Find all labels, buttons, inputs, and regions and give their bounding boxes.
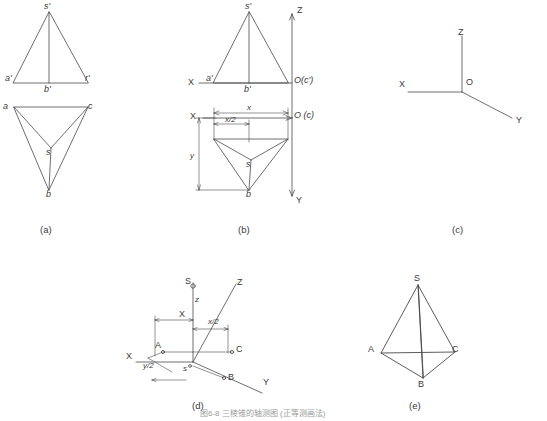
panel-b-label-b: b (246, 190, 251, 199)
panel-b-dim-label-X: X (190, 112, 196, 121)
diagram-stage: s' a' b' r' a c s b (a) Z X Y O(c') O (c… (0, 0, 547, 421)
panel-a-label-r-prime: r' (85, 74, 90, 83)
panel-b-label-o-c: O (c) (294, 111, 314, 120)
panel-d-axis-label-z: Z (237, 278, 243, 287)
panel-e-label-c: C (452, 345, 459, 354)
panel-d-label-s-point: S (185, 277, 191, 286)
panel-a-label-s: s (46, 148, 51, 157)
panel-c-axis-label-x: X (399, 80, 405, 89)
panel-b-dim-label-x-half: x/2 (225, 116, 236, 124)
panel-b-label-s: s (246, 160, 251, 169)
panel-a-label-c: c (88, 102, 93, 111)
panel-d-label-a: A (155, 341, 161, 350)
panel-b-dimension-lines (196, 108, 288, 190)
panel-d-label-z-dim: z (195, 296, 199, 304)
panel-d-dim-label-x-half: x/2 (208, 318, 219, 326)
panel-a-label-b: b (46, 190, 51, 199)
diagram-svg (0, 0, 547, 421)
panel-e-label-a: A (368, 345, 374, 354)
panel-a-front-view (13, 12, 88, 83)
panel-b-label-o-c-prime: O(c') (294, 76, 313, 85)
panel-c-axis-label-z: Z (458, 28, 464, 37)
panel-a-label-a-prime: a' (5, 74, 12, 83)
panel-b-label-b-prime: b' (244, 85, 251, 94)
panel-b-label-s-prime: s' (245, 2, 251, 11)
panel-d-dim-label-y-half: y/2 (143, 362, 154, 370)
panel-b-caption: (b) (238, 225, 250, 235)
panel-c-axis-label-o: O (466, 78, 473, 87)
panel-d-dim-label-X: X (179, 310, 185, 319)
panel-d-axis-label-x: X (126, 352, 132, 361)
panel-b-top-view (214, 139, 288, 190)
panel-b-axis-label-x: X (188, 78, 194, 87)
panel-d-label-b: B (228, 373, 234, 382)
panel-c-axis-label-y: Y (516, 116, 522, 125)
panel-a-label-b-prime: b' (44, 85, 51, 94)
panel-c-axes (408, 36, 512, 118)
panel-e-label-b: B (418, 380, 424, 389)
panel-a-top-view (14, 107, 88, 190)
panel-a-label-a: a (3, 102, 8, 111)
panel-a-label-s-prime: s' (44, 2, 50, 11)
panel-b-axis-label-y: Y (296, 196, 302, 205)
panel-b-dim-label-x: x (247, 104, 251, 112)
panel-a-caption: (a) (40, 225, 52, 235)
panel-d-axis-label-y: Y (263, 378, 269, 387)
panel-d-construction (148, 284, 234, 382)
panel-e-pyramid (381, 285, 455, 378)
panel-b-axis-label-z: Z (297, 6, 303, 15)
panel-b-label-a-prime: a' (206, 74, 213, 83)
panel-e-label-s: S (414, 274, 420, 283)
panel-d-label-c: C (236, 345, 243, 354)
panel-b-front-view (213, 12, 288, 83)
panel-b-dim-label-y: y (190, 152, 194, 160)
panel-e-caption: (e) (409, 401, 421, 411)
figure-footer-caption: 图6-8 三棱锥的轴测图 (正等测画法) (200, 410, 325, 418)
panel-d-label-s-center: s (183, 365, 187, 373)
panel-c-caption: (c) (452, 225, 463, 235)
